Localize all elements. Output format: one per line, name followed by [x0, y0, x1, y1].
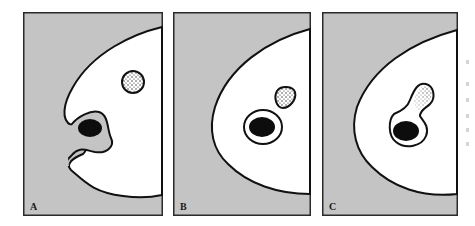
panel-b-drawing: [173, 12, 311, 216]
stippled-body: [122, 71, 144, 93]
dark-body: [249, 117, 275, 137]
figure: A B: [0, 0, 475, 226]
panel-a-drawing: [23, 12, 163, 216]
dark-body: [78, 119, 102, 137]
panel-a: A: [23, 12, 163, 216]
panel-c: C: [322, 12, 458, 216]
panel-c-drawing: [322, 12, 458, 216]
bleed-through-marks: [466, 40, 472, 160]
panel-label-c: C: [329, 202, 336, 212]
panel-label-a: A: [30, 202, 37, 212]
panel-label-b: B: [180, 202, 187, 212]
panel-b: B: [173, 12, 311, 216]
dark-body: [393, 121, 419, 141]
